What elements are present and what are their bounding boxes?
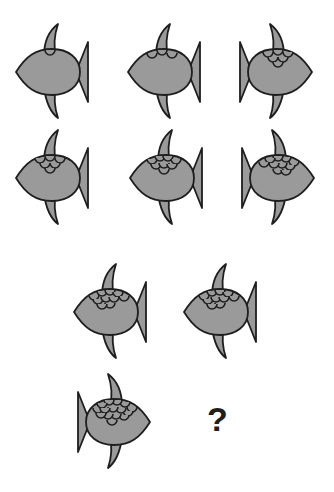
fish-figure [10, 128, 90, 228]
fish-figure [10, 22, 90, 122]
fish-figure [238, 22, 318, 122]
fish-figure [178, 262, 258, 362]
fish-figure [124, 128, 204, 228]
fish-figure [76, 372, 156, 472]
fish-figure [240, 128, 320, 228]
fish-figure [68, 262, 148, 362]
fish-figure [122, 22, 202, 122]
question-mark: ? [207, 402, 228, 436]
